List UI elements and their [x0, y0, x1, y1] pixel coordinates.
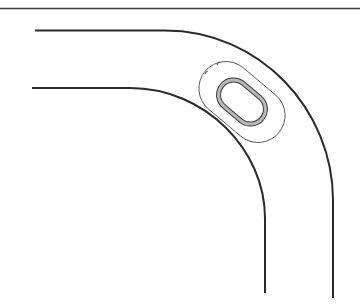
diagram-canvas	[0, 0, 360, 304]
slot-feature	[188, 50, 296, 153]
bend-diagram	[0, 0, 360, 304]
slot-outline	[188, 50, 296, 153]
inner-curve	[32, 88, 265, 293]
slot-hole-band	[212, 74, 271, 130]
outer-curve	[35, 31, 333, 299]
